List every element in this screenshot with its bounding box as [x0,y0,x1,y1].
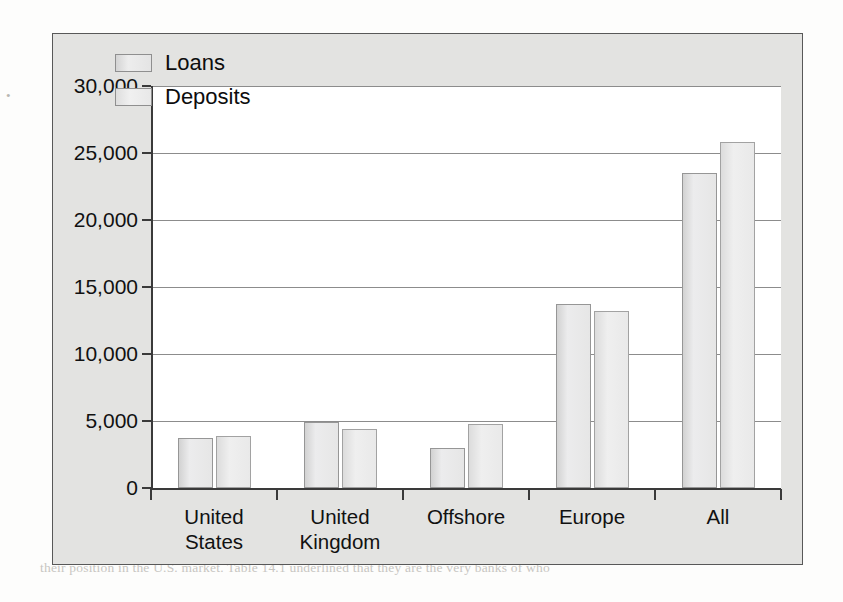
y-axis-tick [142,286,151,288]
y-axis-tick [142,420,151,422]
bar-loans [178,438,213,488]
legend-swatch-deposits-icon [115,88,152,106]
bar-deposits [342,429,377,488]
x-axis-tick [528,489,530,500]
legend-swatch-loans-icon [115,54,152,72]
bar-deposits [594,311,629,488]
bar-loans [556,304,591,488]
chart-legend: Loans Deposits [115,46,251,114]
x-axis-line [151,488,781,490]
bar-deposits [720,142,755,488]
bar-deposits [468,424,503,488]
bar-loans [304,422,339,488]
legend-item-deposits: Deposits [115,80,251,114]
gridline [151,153,781,154]
chart-frame: 05,00010,00015,00020,00025,00030,000 Uni… [52,33,803,565]
x-axis-tick [654,489,656,500]
x-axis-tick [780,489,782,500]
y-axis-tick [142,152,151,154]
y-axis-tick-label: 20,000 [74,208,138,232]
x-axis-tick [276,489,278,500]
y-axis-tick-label: 0 [126,476,138,500]
y-axis-tick-label: 15,000 [74,275,138,299]
bar-deposits [216,436,251,488]
legend-label-deposits: Deposits [165,84,251,110]
bar-loans [430,448,465,488]
x-axis-category-label: All [655,504,781,529]
y-axis-tick-label: 5,000 [85,409,138,433]
x-axis-tick [150,489,152,500]
y-axis-tick-label: 25,000 [74,141,138,165]
legend-item-loans: Loans [115,46,251,80]
y-axis-tick [142,219,151,221]
plot-area [151,86,781,488]
margin-bullet-mark: • [6,88,11,104]
x-axis-category-label: Offshore [403,504,529,529]
y-axis-tick [142,353,151,355]
legend-label-loans: Loans [165,50,225,76]
x-axis-category-label: Europe [529,504,655,529]
y-axis-tick-label: 10,000 [74,342,138,366]
x-axis-tick [402,489,404,500]
x-axis-category-label: United States [151,504,277,554]
bar-loans [682,173,717,488]
y-axis-line [151,86,153,488]
x-axis-category-label: United Kingdom [277,504,403,554]
